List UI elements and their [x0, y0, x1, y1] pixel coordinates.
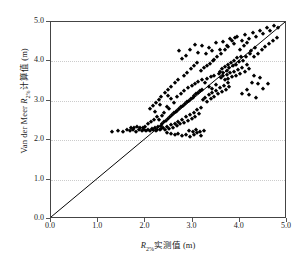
x-tick-label: 5.0 [271, 222, 301, 230]
y-tick-label: 3.0 [14, 96, 44, 104]
x-tick-label: 0.0 [35, 222, 65, 230]
y-tick-label: 2.0 [14, 135, 44, 143]
y-tick-label: 0.0 [14, 214, 44, 222]
plot-area [50, 21, 286, 218]
x-axis-label-rest: 实测值 (m) [154, 240, 195, 250]
x-tick-label: 4.0 [224, 222, 254, 230]
scatter-chart-figure: Van der Meer R2%计算值 (m) R2%实测值 (m) 0.01.… [0, 0, 308, 264]
x-tick-label: 3.0 [177, 222, 207, 230]
y-tick-label: 5.0 [14, 17, 44, 25]
x-axis-label-subscript: 2% [146, 246, 154, 252]
x-tick-label: 1.0 [82, 222, 112, 230]
y-tick-label: 1.0 [14, 175, 44, 183]
x-tick-label: 2.0 [129, 222, 159, 230]
x-axis-label: R2%实测值 (m) [50, 238, 286, 252]
y-axis-label-rest: 计算值 (m) [19, 48, 29, 90]
y-tick-label: 4.0 [14, 56, 44, 64]
y-axis-label-prefix: Van der Meer [19, 104, 29, 154]
